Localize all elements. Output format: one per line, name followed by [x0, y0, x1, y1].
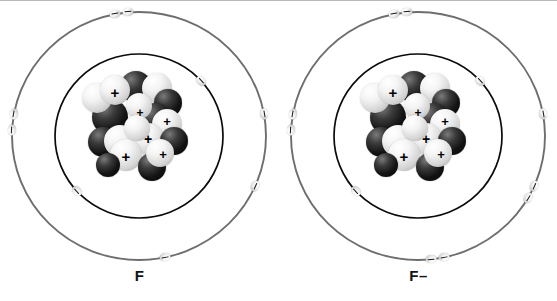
atom-label-fluorine: F	[0, 267, 279, 284]
proton-charge-symbol: +	[400, 149, 409, 164]
outer-shell-electron	[425, 255, 437, 264]
proton-charge-symbol: +	[414, 107, 421, 119]
diagram-canvas: ++++++ F ++++++ F–	[0, 0, 557, 301]
neutron-sphere	[374, 153, 398, 177]
outer-shell-electron	[287, 124, 296, 135]
proton-charge-symbol: +	[389, 85, 398, 100]
electron-body	[401, 8, 413, 17]
proton-charge-symbol: +	[136, 107, 143, 119]
proton-charge-symbol: +	[111, 85, 120, 100]
atom-fluoride-ion: ++++++ F–	[279, 1, 557, 301]
proton-charge-symbol: +	[122, 149, 131, 164]
electron-body	[287, 124, 296, 135]
nucleus-fluoride: ++++++	[358, 69, 478, 189]
proton-charge-symbol: +	[437, 148, 445, 161]
proton-charge-symbol: +	[159, 148, 167, 161]
electron-body	[8, 124, 17, 135]
neutron-sphere	[96, 153, 120, 177]
outer-shell-electron	[538, 108, 548, 120]
nucleus-fluorine: ++++++	[80, 69, 200, 189]
proton-charge-symbol: +	[163, 115, 171, 128]
outer-shell-electron	[122, 8, 134, 17]
outer-shell-electron	[401, 8, 413, 17]
outer-shell-electron	[8, 124, 17, 135]
outer-shell-electron	[259, 108, 269, 120]
atom-fluorine: ++++++ F	[0, 1, 279, 301]
proton-charge-symbol: +	[441, 115, 449, 128]
electron-body	[122, 8, 134, 17]
atom-label-fluoride: F–	[279, 267, 557, 284]
